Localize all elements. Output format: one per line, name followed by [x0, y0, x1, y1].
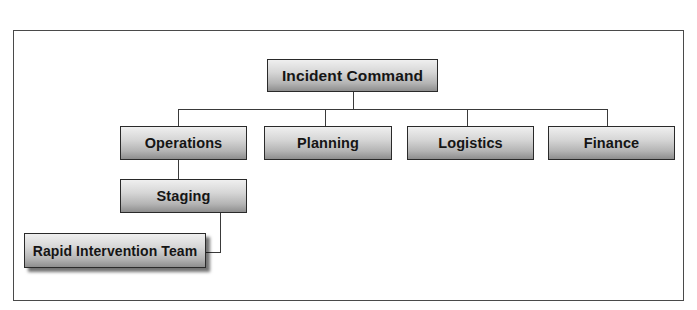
node-operations: Operations	[120, 126, 247, 160]
node-incident-command: Incident Command	[267, 59, 438, 92]
connector-staging-rit	[206, 252, 221, 253]
connector-root-down	[353, 91, 354, 109]
connector-to-operations	[178, 109, 179, 126]
connector-to-finance	[607, 109, 608, 126]
connector-level1-bus	[178, 109, 608, 110]
node-finance: Finance	[548, 126, 675, 160]
connector-staging-down	[220, 212, 221, 253]
node-rapid-intervention-team: Rapid Intervention Team	[24, 233, 206, 268]
node-staging: Staging	[120, 179, 247, 213]
connector-to-planning	[325, 109, 326, 126]
connector-to-logistics	[467, 109, 468, 126]
node-logistics: Logistics	[407, 126, 534, 160]
connector-operations-staging	[178, 159, 179, 179]
node-planning: Planning	[264, 126, 392, 160]
